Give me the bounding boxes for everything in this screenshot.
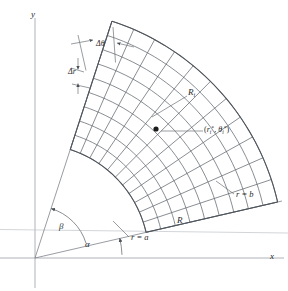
grid-arc-r-0 bbox=[70, 150, 146, 233]
ext-line-dtheta-right bbox=[113, 27, 116, 63]
grid-ray-theta-1 bbox=[143, 180, 271, 223]
grid-arc-r-4 bbox=[89, 93, 205, 219]
x-axis-label: x bbox=[270, 252, 274, 261]
grid-ray-theta-10 bbox=[80, 29, 134, 153]
paren-close: ) bbox=[227, 125, 230, 134]
polar-region-figure bbox=[0, 0, 288, 291]
grid-ray-theta-6 bbox=[115, 81, 210, 177]
grid-ray-theta-5 bbox=[123, 99, 227, 185]
boundary-ray-alpha bbox=[146, 202, 278, 232]
ext-line-dtheta-left bbox=[78, 35, 86, 71]
grid-ray-theta-7 bbox=[107, 66, 193, 170]
angle-alpha-label: α bbox=[85, 240, 90, 249]
subregion-Ri-subscript: i bbox=[194, 92, 196, 98]
angle-beta-label: β bbox=[59, 222, 63, 231]
grid-arc-r-2 bbox=[80, 121, 176, 226]
delta-r-label: Δr bbox=[68, 68, 76, 76]
leader-Ri bbox=[152, 96, 187, 117]
delta-theta-label: Δθ bbox=[96, 40, 105, 48]
arc-beta bbox=[51, 209, 86, 244]
subregion-Ri-label: Ri bbox=[188, 88, 195, 98]
arc-alpha bbox=[120, 238, 122, 255]
inner-boundary-label: r = a bbox=[131, 233, 149, 242]
sample-point-dot bbox=[153, 126, 158, 131]
grid-arc-r-5 bbox=[93, 78, 219, 215]
grid-arc-r-9 bbox=[112, 21, 278, 202]
grid-arc-r-1 bbox=[75, 135, 161, 229]
boundary-outer-arc bbox=[112, 21, 278, 202]
boundary-inner-arc bbox=[70, 150, 146, 233]
ext-line-dr-inner bbox=[72, 84, 90, 88]
outer-boundary-label: r = b bbox=[236, 190, 254, 199]
grid-arc-r-6 bbox=[98, 64, 234, 212]
y-axis-label: y bbox=[31, 10, 35, 19]
region-label: R bbox=[177, 216, 183, 225]
dimension-callouts bbox=[71, 27, 134, 94]
dim-arrow-dtheta-left bbox=[71, 40, 93, 44]
sample-point-label: (ri*, θi*) bbox=[204, 126, 229, 135]
boundary-rays bbox=[35, 21, 282, 258]
leader-ra bbox=[113, 221, 129, 237]
